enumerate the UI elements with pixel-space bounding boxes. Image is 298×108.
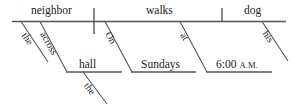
label-object: dog [244,5,261,17]
sentence-diagram: neighbor walks dog hall Sundays 6:00A.M.… [0,0,298,108]
label-time-meridiem: A.M. [239,60,258,70]
line-on [105,22,132,73]
line-at [180,22,207,73]
label-time: 6:00A.M. [216,59,258,71]
label-subject: neighbor [31,5,72,17]
label-time-number: 6:00 [216,58,236,70]
label-hall: hall [79,59,96,71]
label-sundays: Sundays [141,59,180,71]
label-verb: walks [146,5,173,17]
